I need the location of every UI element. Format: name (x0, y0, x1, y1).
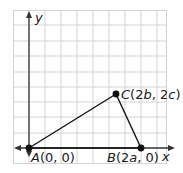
coordinate-diagram: x y A(0, 0) B(2a, 0) C(2b, 2c) (0, 0, 183, 173)
point-a-label: A(0, 0) (30, 150, 75, 165)
point-b-label: B(2a, 0) (107, 150, 159, 165)
x-axis-left-arrow-icon (14, 145, 21, 151)
point-c-label: C(2b, 2c) (121, 87, 180, 102)
point-c (113, 91, 120, 98)
x-axis-label: x (161, 149, 170, 164)
y-axis: y (26, 10, 43, 157)
y-axis-label: y (34, 10, 43, 25)
y-axis-up-arrow-icon (26, 11, 32, 18)
